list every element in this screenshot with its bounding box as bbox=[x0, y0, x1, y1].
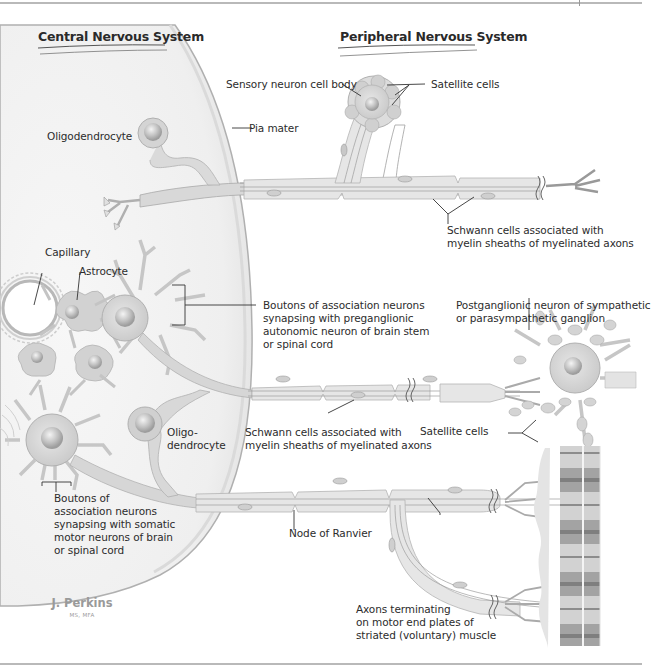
label-satellite-cells-top: Satellite cells bbox=[431, 78, 499, 91]
artist-signature: J. Perkins bbox=[37, 596, 127, 610]
label-oligodendrocyte-top: Oligodendrocyte bbox=[47, 130, 132, 143]
capillary bbox=[0, 273, 65, 343]
postganglionic-neuron bbox=[509, 305, 636, 447]
label-postganglionic-2: or parasympathetic ganglion bbox=[456, 312, 605, 325]
label-schwann-mid-1: Schwann cells associated with bbox=[245, 426, 402, 439]
label-boutons-somatic-1: Boutons of bbox=[54, 492, 109, 505]
label-boutons-somatic-5: or spinal cord bbox=[54, 544, 124, 557]
label-schwann-top-2: myelin sheaths of myelinated axons bbox=[447, 237, 634, 250]
label-boutons-autonomic-1: Boutons of association neurons bbox=[263, 299, 425, 312]
label-boutons-autonomic-3: autonomic neuron of brain stem bbox=[263, 325, 429, 338]
label-capillary: Capillary bbox=[45, 246, 90, 259]
label-oligodendrocyte-mid-2: dendrocyte bbox=[167, 439, 226, 452]
label-boutons-somatic-3: synapsing with somatic bbox=[54, 518, 175, 531]
striated-muscle bbox=[534, 446, 600, 648]
label-schwann-mid-2: myelin sheaths of myelinated axons bbox=[245, 439, 432, 452]
bottom-rule bbox=[0, 663, 642, 665]
artist-credentials: MS, MFA bbox=[37, 612, 127, 618]
label-sensory-neuron-body: Sensory neuron cell body bbox=[226, 78, 357, 91]
label-node-of-ranvier: Node of Ranvier bbox=[289, 527, 372, 540]
cns-heading: Central Nervous System bbox=[38, 29, 204, 44]
label-astrocyte: Astrocyte bbox=[79, 265, 128, 278]
label-axons-terminating-1: Axons terminating bbox=[356, 603, 451, 616]
pns-underline bbox=[338, 45, 475, 48]
label-boutons-autonomic-2: synapsing with preganglionic bbox=[263, 312, 414, 325]
lower-axon bbox=[196, 478, 560, 622]
label-axons-terminating-2: on motor end plates of bbox=[356, 616, 474, 629]
label-boutons-autonomic-4: or spinal cord bbox=[263, 338, 333, 351]
label-boutons-somatic-4: motor neurons of brain bbox=[54, 531, 173, 544]
pns-heading: Peripheral Nervous System bbox=[340, 29, 527, 44]
label-boutons-somatic-2: association neurons bbox=[54, 505, 157, 518]
label-oligodendrocyte-mid-1: Oligo- bbox=[167, 426, 198, 439]
label-pia-mater: Pia mater bbox=[249, 122, 298, 135]
label-axons-terminating-3: striated (voluntary) muscle bbox=[356, 629, 496, 642]
label-schwann-top-1: Schwann cells associated with bbox=[447, 224, 604, 237]
middle-axon bbox=[248, 376, 540, 405]
label-satellite-cells-mid: Satellite cells bbox=[420, 425, 488, 438]
label-postganglionic-1: Postganglionic neuron of sympathetic bbox=[456, 299, 651, 312]
